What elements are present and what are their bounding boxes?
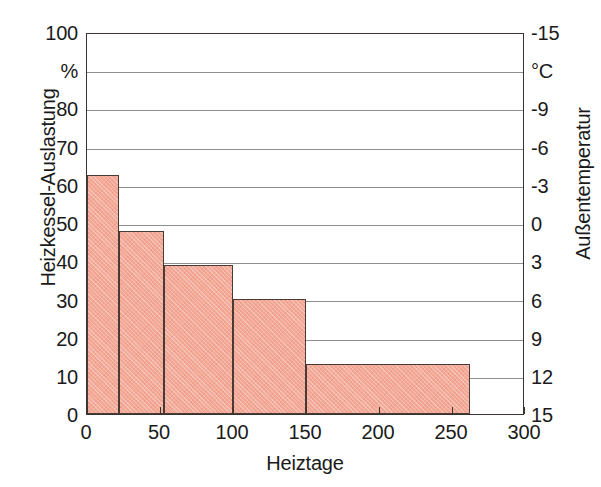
y-tick-left-9: 10	[22, 367, 78, 387]
x-tick-3: 150	[270, 421, 340, 443]
x-tickmark-100	[233, 407, 234, 414]
y-tick-left-3: 70	[22, 138, 78, 158]
x-tickmark-0	[87, 407, 88, 414]
bar-4	[306, 364, 470, 414]
y-tick-left-6: 40	[22, 252, 78, 272]
x-tickmark-50	[160, 407, 161, 414]
y-tick-right-7: 6	[531, 291, 587, 311]
y-tick-right-8: 9	[531, 329, 587, 349]
x-tick-4: 200	[343, 421, 413, 443]
y-tick-left-8: 20	[22, 329, 78, 349]
y-tick-left-1: %	[22, 61, 78, 81]
bar-3	[233, 299, 306, 414]
x-axis-title: Heiztage	[86, 452, 524, 475]
bar-2	[164, 265, 233, 414]
y-tick-left-4: 60	[22, 176, 78, 196]
plot-area	[86, 33, 524, 415]
x-tickmark-250	[452, 407, 453, 414]
x-tickmark-150	[306, 407, 307, 414]
y-tick-right-4: -3	[531, 176, 587, 196]
gridline-60	[87, 187, 523, 188]
y-tick-right-6: 3	[531, 252, 587, 272]
y-tick-left-2: 80	[22, 99, 78, 119]
y-tick-left-5: 50	[22, 214, 78, 234]
x-tick-2: 100	[197, 421, 267, 443]
y-tick-right-2: -9	[531, 99, 587, 119]
x-tickmark-300	[524, 407, 525, 414]
gridline-90	[87, 72, 523, 73]
y-tick-right-0: -15	[531, 23, 587, 43]
gridline-70	[87, 149, 523, 150]
x-tick-6: 300	[489, 421, 559, 443]
y-tick-left-7: 30	[22, 291, 78, 311]
y-tick-right-5: 0	[531, 214, 587, 234]
y-tick-right-3: -6	[531, 138, 587, 158]
y-tick-right-9: 12	[531, 367, 587, 387]
bar-0	[87, 175, 119, 414]
bar-1	[119, 231, 164, 414]
gridline-80	[87, 110, 523, 111]
gridline-50	[87, 225, 523, 226]
x-tick-0: 0	[51, 421, 121, 443]
chart-figure: Heizkessel-Auslastung Außentemperatur 10…	[0, 0, 601, 487]
y-tick-right-1: °C	[531, 61, 587, 81]
x-tickmark-200	[379, 407, 380, 414]
y-tick-left-0: 100	[22, 23, 78, 43]
x-tick-1: 50	[124, 421, 194, 443]
x-tick-5: 250	[416, 421, 486, 443]
